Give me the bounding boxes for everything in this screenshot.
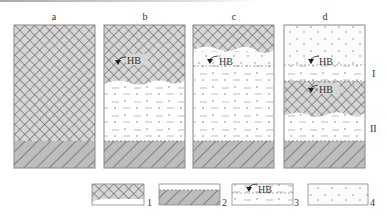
hb-label-d-lower: HB <box>319 84 333 95</box>
panel-label-c: c <box>232 11 237 22</box>
legend-item-4: 4 <box>308 184 375 208</box>
stratigraphy-diagram: a b c d HB HB <box>0 0 389 220</box>
hb-label-b: HB <box>127 55 141 66</box>
legend-item-1: 1 <box>92 184 152 208</box>
panel-label-a: a <box>52 11 57 22</box>
panel-label-d: d <box>323 11 328 22</box>
zone-label-I: I <box>372 68 375 79</box>
legend-num-4: 4 <box>370 197 375 208</box>
panel-b: HB <box>104 25 185 168</box>
legend-item-3: HB 3 <box>232 184 299 208</box>
legend-item-2: 2 <box>159 184 227 208</box>
zone-label-II: II <box>370 123 377 134</box>
hb-label-d-upper: HB <box>319 56 333 67</box>
legend: 1 2 HB 3 4 <box>92 184 375 208</box>
legend-num-2: 2 <box>222 197 227 208</box>
panel-a <box>14 25 95 168</box>
legend-num-3: 3 <box>294 197 299 208</box>
panel-c: HB <box>193 25 274 168</box>
legend-hb: HB <box>258 184 272 195</box>
legend-num-1: 1 <box>147 197 152 208</box>
hb-label-c: HB <box>219 56 233 67</box>
panel-label-b: b <box>143 11 148 22</box>
panel-d: HB HB <box>284 25 365 168</box>
